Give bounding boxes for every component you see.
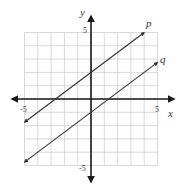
line-p-label: p	[145, 17, 152, 29]
x-tick-max: 5	[155, 105, 159, 114]
line-q-label: q	[160, 53, 166, 65]
y-tick-min: -5	[79, 164, 86, 173]
y-tick-max: 5	[83, 26, 87, 35]
coordinate-plane: y x -5 5 5 -5 p q	[0, 0, 186, 186]
x-tick-min: -5	[20, 105, 27, 114]
x-axis-label: x	[167, 107, 173, 119]
y-axis-label: y	[79, 6, 85, 18]
